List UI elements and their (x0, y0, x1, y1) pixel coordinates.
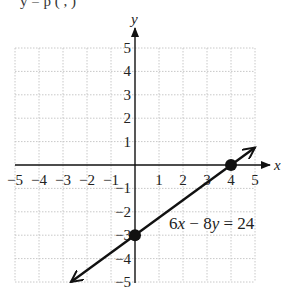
x-tick-label: −2 (79, 172, 95, 188)
x-tick-label: −3 (55, 172, 71, 188)
axes (15, 28, 270, 283)
y-tick-label: −4 (115, 251, 131, 267)
x-tick-label: −5 (7, 172, 23, 188)
y-tick-label: −2 (115, 204, 131, 220)
equation-label: 6x − 8y = 24 (169, 214, 255, 233)
x-tick-label: 4 (227, 172, 235, 188)
cropped-header-text: y = p ( , ) (20, 0, 76, 10)
y-tick-label: 5 (124, 40, 132, 56)
y-axis-label: y (129, 11, 138, 27)
x-tick-label: 2 (179, 172, 187, 188)
y-tick-label: −5 (115, 274, 131, 290)
y-tick-label: 1 (124, 134, 132, 150)
x-tick-label: −4 (31, 172, 47, 188)
intercept-point (225, 159, 237, 171)
intercept-point (129, 229, 141, 241)
y-tick-label: 3 (124, 87, 132, 103)
y-tick-label: 2 (124, 110, 132, 126)
coordinate-plane: y = p ( , ) −5−4−3−2−112345−5−4−3−2−1123… (0, 0, 281, 301)
x-tick-label: 5 (251, 172, 259, 188)
y-tick-label: −1 (115, 180, 131, 196)
x-tick-label: 1 (155, 172, 163, 188)
y-tick-label: 4 (124, 63, 132, 79)
x-axis-label: x (273, 157, 281, 173)
